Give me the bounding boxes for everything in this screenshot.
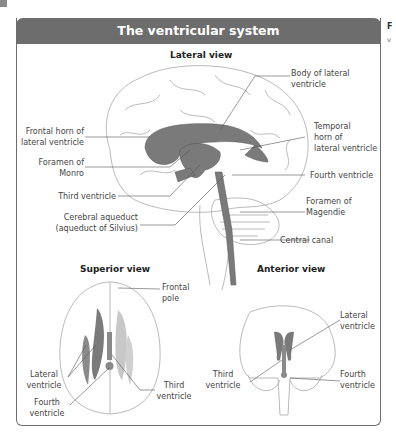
label-line: Fourth: [26, 397, 68, 408]
label-line: ventricle: [156, 391, 192, 402]
anterior-view-heading: Anterior view: [257, 264, 325, 274]
label-fourth-ventricle-lateral: Fourth ventricle: [310, 170, 373, 181]
label-cerebral-aqueduct: Cerebral aqueduct (aqueduct of Silvius): [20, 212, 138, 234]
label-lateral-ventricle-anterior: Lateral ventricle: [340, 310, 375, 332]
label-temporal-horn: Temporal horn of lateral ventricle: [314, 121, 377, 154]
label-frontal-horn: Frontal horn of lateral ventricle: [20, 126, 84, 148]
label-line: ventricle: [340, 321, 375, 332]
label-foramen-magendie: Foramen of Magendie: [306, 196, 351, 218]
label-central-canal: Central canal: [280, 235, 333, 246]
label-third-ventricle-superior: Third ventricle: [156, 380, 192, 402]
label-line: Body of lateral: [291, 68, 350, 79]
lateral-brain-outline: [106, 66, 308, 290]
label-line: ventricle: [291, 79, 350, 90]
label-line: ventricle: [26, 408, 68, 419]
label-line: ventricle: [200, 380, 246, 391]
label-line: Magendie: [306, 207, 351, 218]
label-line: Temporal: [314, 121, 377, 132]
label-line: Monro: [20, 168, 84, 179]
label-line: Fourth: [340, 369, 375, 380]
label-fourth-ventricle-superior: Fourth ventricle: [26, 397, 68, 419]
label-line: pole: [162, 293, 189, 304]
label-line: Third: [156, 380, 192, 391]
label-line: Lateral: [20, 369, 68, 380]
label-line: Cerebral aqueduct: [20, 212, 138, 223]
label-line: Lateral: [340, 310, 375, 321]
anterior-brain-outline: [240, 306, 335, 415]
lateral-view-heading: Lateral view: [170, 50, 232, 60]
label-frontal-pole: Frontal pole: [162, 282, 189, 304]
label-line: Frontal: [162, 282, 189, 293]
superior-view-heading: Superior view: [80, 264, 150, 274]
label-line: Foramen of: [306, 196, 351, 207]
label-foramen-monro: Foramen of Monro: [20, 157, 84, 179]
superior-leader-lines: [68, 288, 160, 405]
superior-ventricles: [82, 308, 133, 385]
label-line: Third: [200, 369, 246, 380]
label-line: ventricle: [20, 380, 68, 391]
label-line: Foramen of: [20, 157, 84, 168]
label-third-ventricle-anterior: Third ventricle: [200, 369, 246, 391]
label-line: horn of: [314, 132, 377, 143]
label-line: lateral ventricle: [314, 143, 377, 154]
label-lateral-ventricle-superior: Lateral ventricle: [20, 369, 68, 391]
label-fourth-ventricle-anterior: Fourth ventricle: [340, 369, 375, 391]
anterior-leader-lines: [250, 320, 340, 382]
anterior-ventricles: [274, 332, 294, 378]
label-body-lateral: Body of lateral ventricle: [291, 68, 350, 90]
label-line: (aqueduct of Silvius): [20, 223, 138, 234]
label-line: ventricle: [340, 380, 375, 391]
label-third-ventricle-lateral: Third ventricle: [20, 191, 116, 202]
label-line: Frontal horn of: [20, 126, 84, 137]
label-line: lateral ventricle: [20, 137, 84, 148]
